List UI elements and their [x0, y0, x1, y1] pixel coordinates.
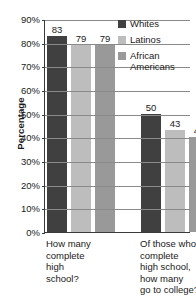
category-label-line: how many	[140, 273, 196, 285]
gridline	[45, 162, 190, 163]
legend: WhitesLatinosAfrican Americans	[118, 18, 194, 77]
y-axis-tick-labels: 0%10%20%30%40%50%60%70%80%90%	[0, 0, 42, 304]
axis-tick	[42, 20, 45, 21]
y-tick-label: 40%	[0, 133, 40, 143]
axis-tick	[42, 162, 45, 163]
gridline	[45, 115, 190, 116]
legend-swatch-icon	[118, 20, 126, 28]
legend-label: African Americans	[130, 50, 194, 72]
axis-tick	[42, 209, 45, 210]
axis-tick	[42, 67, 45, 68]
category-label-line: high	[46, 261, 116, 273]
axis-tick	[42, 138, 45, 139]
y-tick-label: 70%	[0, 62, 40, 72]
y-tick-label: 10%	[0, 204, 40, 214]
legend-swatch-icon	[118, 36, 126, 44]
gridline	[45, 209, 190, 210]
legend-item: Whites	[118, 18, 194, 29]
y-tick-label: 50%	[0, 110, 40, 120]
bar-value-label: 79	[91, 34, 119, 44]
category-label-line: Of those who	[140, 238, 196, 250]
axis-tick	[42, 233, 45, 234]
axis-tick	[42, 115, 45, 116]
category-label: Of those whocompletehigh school,how many…	[140, 238, 196, 296]
y-tick-label: 20%	[0, 181, 40, 191]
category-label-line: school?	[46, 273, 116, 285]
category-label: How manycompletehighschool?	[46, 238, 116, 284]
category-label-line: complete	[46, 250, 116, 262]
y-tick-label: 0%	[0, 228, 40, 238]
axis-tick	[42, 186, 45, 187]
bar	[165, 130, 185, 232]
category-axis-labels: How manycompletehighschool?Of those whoc…	[44, 238, 196, 304]
y-tick-label: 80%	[0, 39, 40, 49]
gridline	[45, 91, 190, 92]
category-label-line: complete	[140, 250, 196, 262]
gridline	[45, 138, 190, 139]
legend-item: African Americans	[118, 50, 194, 72]
category-label-line: high school,	[140, 261, 196, 273]
gridline	[45, 186, 190, 187]
legend-label: Latinos	[130, 34, 161, 45]
legend-swatch-icon	[118, 52, 126, 60]
category-label-line: How many	[46, 238, 116, 250]
y-tick-label: 90%	[0, 15, 40, 25]
bar-chart: Percentage 0%10%20%30%40%50%60%70%80%90%…	[0, 0, 196, 304]
bar	[141, 114, 161, 232]
bar	[189, 137, 196, 232]
bar-value-label: 50	[137, 103, 165, 113]
legend-label: Whites	[130, 18, 159, 29]
axis-tick	[42, 91, 45, 92]
category-label-line: go to college?	[140, 284, 196, 296]
bar	[47, 36, 67, 232]
axis-tick	[42, 44, 45, 45]
y-tick-label: 60%	[0, 86, 40, 96]
y-tick-label: 30%	[0, 157, 40, 167]
legend-item: Latinos	[118, 34, 194, 45]
bar-value-label: 40	[185, 126, 196, 136]
